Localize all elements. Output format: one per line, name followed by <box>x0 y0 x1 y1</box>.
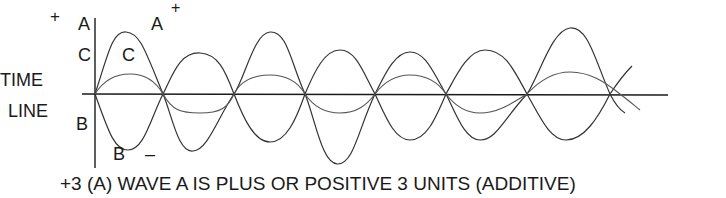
label-b-axis: B <box>76 115 88 133</box>
label-a-curve: A <box>151 15 163 33</box>
caption-prefix: +3 <box>60 173 82 194</box>
label-c-axis: C <box>78 46 91 64</box>
label-line: LINE <box>8 102 48 120</box>
wave-b <box>95 50 632 150</box>
caption-text: (A) WAVE A IS PLUS OR POSITIVE 3 UNITS (… <box>87 173 576 194</box>
label-c-curve: C <box>122 46 135 64</box>
wave-plot <box>0 0 726 198</box>
label-time: TIME <box>0 71 43 89</box>
minus-sign-b-curve: – <box>145 145 155 163</box>
label-b-curve: B <box>113 145 125 163</box>
caption: +3 (A) WAVE A IS PLUS OR POSITIVE 3 UNIT… <box>60 174 576 193</box>
plus-sign-a-curve: + <box>171 0 180 16</box>
wave-a <box>95 28 625 164</box>
label-a-axis: A <box>78 15 90 33</box>
plus-sign-top-left: + <box>50 8 60 25</box>
